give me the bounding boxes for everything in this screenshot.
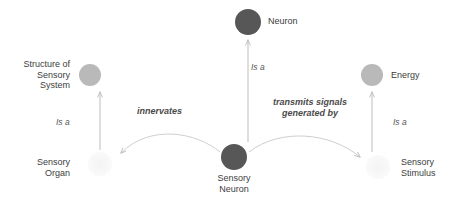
node-structure-of-sensory-system[interactable]: [79, 64, 101, 86]
node-label-neuron: Neuron: [268, 16, 348, 27]
node-neuron[interactable]: [235, 9, 261, 35]
node-sensory-stimulus[interactable]: [366, 155, 390, 179]
edge-line-transmits-signals: [249, 136, 360, 157]
node-sensory-organ[interactable]: [88, 152, 112, 176]
edge-label-sensory-organ-is-a-structure: Is a: [56, 117, 70, 128]
edge-label-sensory-stimulus-is-a-energy: Is a: [393, 117, 407, 128]
node-energy[interactable]: [361, 64, 383, 86]
edge-line-innervates: [121, 134, 220, 153]
node-sensory-neuron[interactable]: [221, 144, 247, 170]
edge-label-transmits-signals: transmits signals generated by: [256, 97, 364, 119]
edge-label-innervates: innervates: [137, 106, 182, 117]
node-label-sensory-organ: Sensory Organ: [8, 157, 70, 178]
node-label-structure-of-sensory-system: Structure of Sensory System: [0, 59, 70, 91]
edge-label-sensory-neuron-is-a-neuron: Is a: [251, 62, 265, 73]
diagram-canvas: Neuron Structure of Sensory System Energ…: [0, 0, 452, 203]
node-label-sensory-neuron: Sensory Neuron: [199, 173, 269, 194]
node-label-energy: Energy: [391, 70, 451, 81]
node-label-sensory-stimulus: Sensory Stimulus: [401, 157, 452, 178]
